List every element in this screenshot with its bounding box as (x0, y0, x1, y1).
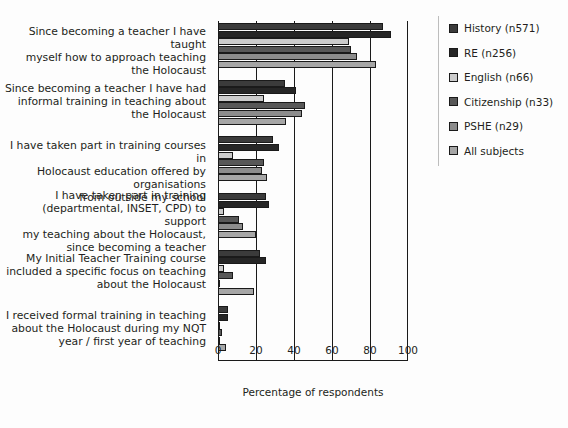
legend-item[interactable]: Citizenship (n33) (449, 90, 566, 115)
bar (218, 314, 228, 321)
bar (218, 31, 391, 38)
bar-group (218, 250, 408, 296)
bar (218, 159, 264, 166)
legend-label: All subjects (464, 145, 524, 157)
chart-figure: Since becoming a teacher I have taughtmy… (0, 0, 568, 428)
bar (218, 152, 233, 159)
bar (218, 250, 260, 257)
legend-label: English (n66) (464, 71, 533, 83)
bar-group (218, 193, 408, 239)
bar (218, 265, 224, 272)
x-tick-label: 100 (398, 344, 418, 356)
bar (218, 136, 273, 143)
bar (218, 322, 220, 329)
bar (218, 216, 239, 223)
legend-label: PSHE (n29) (464, 120, 523, 132)
category-label-line: informal training in teaching about (0, 95, 206, 108)
bar-group (218, 80, 408, 126)
bar (218, 329, 222, 336)
category-label-line: the Holocaust (0, 108, 206, 121)
category-label-line: I have taken part in training courses in (0, 139, 206, 165)
legend-item[interactable]: PSHE (n29) (449, 114, 566, 139)
bar (218, 53, 357, 60)
bar (218, 201, 269, 208)
category-label-line: Since becoming a teacher I have taught (0, 25, 206, 51)
bar (218, 174, 267, 181)
bar (218, 102, 305, 109)
bar (218, 272, 233, 279)
category-label-line: I received formal training in teaching (0, 309, 206, 322)
bar (218, 288, 254, 295)
bar (218, 337, 220, 344)
bar (218, 61, 376, 68)
category-label: My Initial Teacher Training courseinclud… (0, 252, 206, 291)
legend-item[interactable]: History (n571) (449, 16, 566, 41)
x-tick-label: 20 (249, 344, 262, 356)
legend-label: History (n571) (464, 22, 540, 34)
x-tick-label: 80 (363, 344, 376, 356)
legend-item[interactable]: RE (n256) (449, 41, 566, 66)
bar (218, 208, 224, 215)
category-label-line: year / first year of teaching (0, 335, 206, 348)
category-label-column: Since becoming a teacher I have taughtmy… (0, 0, 212, 428)
bar (218, 38, 349, 45)
x-axis-title: Percentage of respondents (218, 386, 408, 398)
x-tick-label: 60 (325, 344, 338, 356)
x-tick-label: 40 (287, 344, 300, 356)
legend-item[interactable]: English (n66) (449, 65, 566, 90)
bar (218, 46, 351, 53)
category-label: Since becoming a teacher I have hadinfor… (0, 82, 206, 121)
legend-label: Citizenship (n33) (464, 96, 553, 108)
category-label-line: included a specific focus on teaching (0, 265, 206, 278)
category-label-line: about the Holocaust during my NQT (0, 322, 206, 335)
category-label: Since becoming a teacher I have taughtmy… (0, 25, 206, 77)
bar (218, 193, 266, 200)
legend-swatch-icon (449, 146, 458, 155)
legend-swatch-icon (449, 97, 458, 106)
category-label-line: I have taken part in training (0, 189, 206, 202)
legend-swatch-icon (449, 24, 458, 33)
bar (218, 167, 262, 174)
category-label-line: (departmental, INSET, CPD) to support (0, 202, 206, 228)
bar (218, 144, 279, 151)
category-label-line: Since becoming a teacher I have had (0, 82, 206, 95)
bar (218, 118, 286, 125)
bar (218, 110, 302, 117)
category-label: I have taken part in training(department… (0, 189, 206, 254)
bar-group (218, 306, 408, 352)
x-tick-label: 0 (215, 344, 222, 356)
bar (218, 95, 264, 102)
bar (218, 23, 383, 30)
bar (218, 223, 243, 230)
legend-swatch-icon (449, 73, 458, 82)
category-label-line: my teaching about the Holocaust, (0, 228, 206, 241)
legend-swatch-icon (449, 122, 458, 131)
legend-label: RE (n256) (464, 47, 516, 59)
category-label-line: Holocaust education offered by organisat… (0, 165, 206, 191)
bar (218, 80, 285, 87)
legend-item[interactable]: All subjects (449, 139, 566, 164)
category-label-line: the Holocaust (0, 64, 206, 77)
bar-group (218, 23, 408, 69)
bar (218, 231, 256, 238)
plot-area (218, 21, 408, 361)
bar-group (218, 136, 408, 182)
bar (218, 306, 228, 313)
bar (218, 257, 266, 264)
bar (218, 87, 296, 94)
category-label-line: My Initial Teacher Training course (0, 252, 206, 265)
category-label: I received formal training in teachingab… (0, 309, 206, 348)
category-label-line: about the Holocaust (0, 278, 206, 291)
chart-legend: History (n571)RE (n256)English (n66)Citi… (438, 16, 566, 166)
legend-swatch-icon (449, 48, 458, 57)
bar (218, 280, 220, 287)
category-label-line: myself how to approach teaching (0, 51, 206, 64)
